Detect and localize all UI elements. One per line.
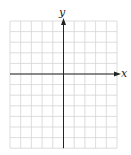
x-axis-arrow-icon (114, 72, 121, 77)
coordinate-grid (0, 0, 131, 155)
y-axis-arrow-icon (61, 18, 66, 25)
y-axis-label: y (59, 7, 65, 18)
x-axis-label: x (121, 68, 127, 79)
